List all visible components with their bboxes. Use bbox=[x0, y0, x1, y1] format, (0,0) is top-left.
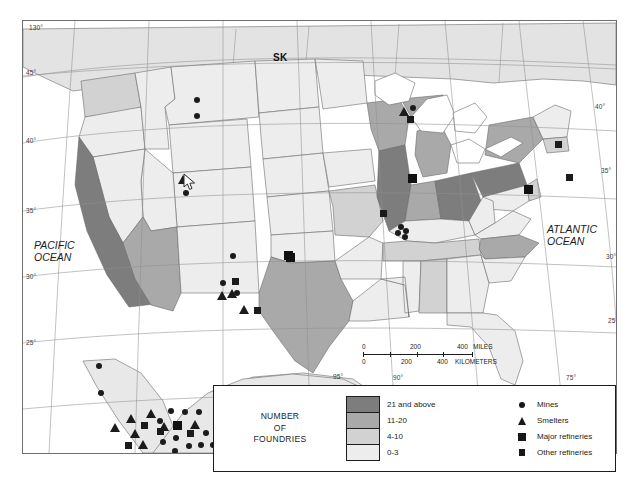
map-point-mine bbox=[186, 443, 192, 449]
map-point-other bbox=[555, 141, 562, 148]
map-screenshot: SK PACIFIC OCEAN ATLANTIC OCEAN 130° 45°… bbox=[0, 0, 639, 493]
legend-class-label-1: 11-20 bbox=[387, 413, 436, 429]
map-point-smelter bbox=[190, 420, 200, 429]
smelter-icon bbox=[516, 413, 528, 429]
map-point-mine bbox=[198, 442, 204, 448]
legend-symbol-label-other-refineries: Other refineries bbox=[537, 445, 592, 461]
map-point-mine bbox=[230, 253, 236, 259]
map-point-mine bbox=[157, 418, 163, 424]
map-point-mine bbox=[96, 363, 102, 369]
graticule-label-75w: 75° bbox=[566, 374, 576, 381]
pacific-ocean-label: PACIFIC OCEAN bbox=[34, 239, 75, 263]
graticule-label-30n-left: 30° bbox=[26, 273, 36, 280]
legend-symbol-label-smelters: Smelters bbox=[537, 413, 592, 429]
legend-class-label-2: 4-10 bbox=[387, 429, 436, 445]
map-point-other bbox=[380, 210, 387, 217]
scale-miles-ticks: 0 200 400 MILES bbox=[363, 343, 473, 352]
legend-class-labels: 21 and above 11-20 4-10 0-3 bbox=[387, 397, 436, 461]
scale-km-ticks: 0 200 400 KILOMETERS bbox=[363, 358, 473, 367]
other-refinery-icon bbox=[516, 445, 528, 461]
legend-class-label-3: 0-3 bbox=[387, 445, 436, 461]
legend-symbol-labels: Mines Smelters Major refineries Other re… bbox=[537, 397, 592, 461]
scale-bar-graphic bbox=[363, 352, 473, 357]
map-point-smelter bbox=[110, 423, 120, 432]
map-point-mine bbox=[173, 435, 179, 441]
map-point-mine bbox=[98, 390, 104, 396]
map-point-other bbox=[187, 430, 194, 437]
graticule-label-95w: 95° bbox=[333, 373, 343, 380]
legend-choropleth-group: 21 and above 11-20 4-10 0-3 bbox=[346, 396, 464, 461]
graticule-label-35n-left: 35° bbox=[26, 207, 36, 214]
scale-miles-unit: MILES bbox=[473, 343, 493, 350]
legend-swatch-3 bbox=[347, 445, 379, 460]
graticule-label-40n-left: 40° bbox=[26, 137, 36, 144]
legend-swatch-1 bbox=[347, 413, 379, 429]
legend-swatch-0 bbox=[347, 397, 379, 413]
legend-swatch-2 bbox=[347, 429, 379, 445]
map-point-other bbox=[566, 174, 573, 181]
graticule-label-40n-right: 40° bbox=[595, 103, 605, 110]
map-point-mine bbox=[395, 230, 401, 236]
map-point-major bbox=[284, 251, 293, 260]
map-point-mine bbox=[410, 105, 416, 111]
map-point-mine bbox=[402, 234, 408, 240]
graticule-label-25n-left: 25° bbox=[26, 339, 36, 346]
graticule-label-45n-left: 45° bbox=[26, 69, 36, 76]
legend-swatch-stack bbox=[346, 396, 380, 461]
legend-symbol-marks bbox=[516, 397, 528, 461]
map-point-other bbox=[141, 422, 148, 429]
scale-km-unit: KILOMETERS bbox=[455, 358, 497, 365]
scale-bar: 0 200 400 MILES 0 200 400 KILOMETERS bbox=[363, 343, 473, 367]
map-point-major bbox=[524, 185, 533, 194]
graticule-label-90w: 90° bbox=[393, 374, 403, 381]
map-point-mine bbox=[172, 448, 178, 454]
legend-symbol-label-major-refineries: Major refineries bbox=[537, 429, 592, 445]
major-refinery-icon bbox=[516, 429, 528, 445]
legend-title-number-of-foundries: NUMBER OF FOUNDRIES bbox=[214, 411, 346, 446]
legend-symbol-group: Mines Smelters Major refineries Other re… bbox=[516, 397, 592, 461]
map-point-mine bbox=[194, 113, 200, 119]
map-point-other bbox=[407, 116, 414, 123]
legend-class-label-0: 21 and above bbox=[387, 397, 436, 413]
map-point-smelter bbox=[217, 291, 227, 300]
map-point-major bbox=[173, 421, 182, 430]
graticule-label-30n-right: 30° bbox=[606, 253, 616, 260]
map-point-mine bbox=[203, 430, 209, 436]
map-point-smelter bbox=[239, 305, 249, 314]
map-point-mine bbox=[168, 408, 174, 414]
graticule-label-35n-right: 35° bbox=[601, 167, 611, 174]
map-point-mine bbox=[196, 409, 202, 415]
map-legend: NUMBER OF FOUNDRIES 21 and above 11-20 4… bbox=[213, 385, 616, 472]
mine-icon bbox=[516, 397, 528, 413]
province-label-sk: SK bbox=[273, 52, 288, 63]
map-point-other bbox=[125, 442, 132, 449]
map-point-smelter bbox=[130, 429, 140, 438]
map-point-mine bbox=[220, 280, 226, 286]
graticule-label-130w: 130° bbox=[29, 24, 43, 31]
mouse-cursor-icon bbox=[183, 173, 197, 191]
legend-symbol-label-mines: Mines bbox=[537, 397, 592, 413]
map-point-mine bbox=[194, 97, 200, 103]
map-point-smelter bbox=[227, 289, 237, 298]
graticule-label-25n-right: 25° bbox=[608, 317, 617, 324]
map-point-major bbox=[408, 174, 417, 183]
map-point-mine bbox=[160, 439, 166, 445]
atlantic-ocean-label: ATLANTIC OCEAN bbox=[547, 223, 597, 247]
map-point-mine bbox=[182, 409, 188, 415]
map-point-other bbox=[232, 278, 239, 285]
map-point-smelter bbox=[126, 414, 136, 423]
map-point-smelter bbox=[146, 409, 156, 418]
map-point-smelter bbox=[138, 440, 148, 449]
map-point-other bbox=[254, 307, 261, 314]
map-point-other bbox=[157, 428, 164, 435]
